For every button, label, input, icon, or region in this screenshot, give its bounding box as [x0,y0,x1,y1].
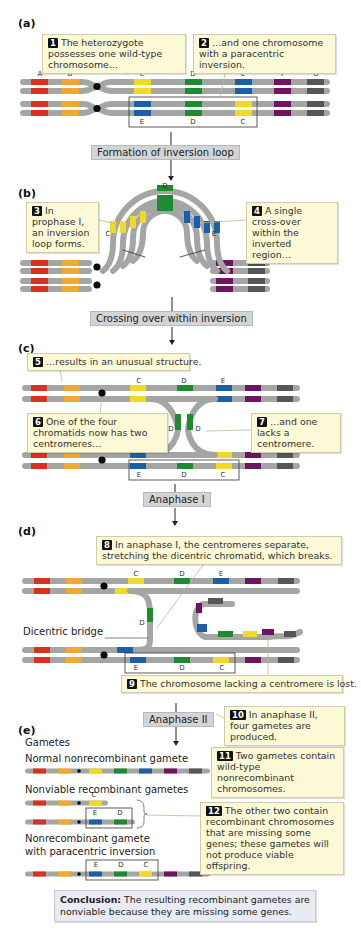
gene-F [164,769,177,774]
gene-B [62,260,79,266]
gene-E [134,110,151,116]
gene-E [89,820,102,825]
callout-number: 2 [199,38,209,48]
gene-label: C [221,471,226,479]
conclusion-label: Conclusion: [60,894,121,905]
gene-D [177,463,193,469]
gene-E [117,647,133,653]
gene-C [89,801,102,806]
gene-label: E [221,377,225,385]
centromere [100,582,107,589]
gene-F [262,629,274,635]
gene-label: C [137,377,142,385]
gene-label: E [219,570,223,578]
gene-E [134,101,151,107]
callout-number: 10 [230,710,246,720]
arrow-head [168,176,174,181]
gene-E [216,396,232,402]
gene-D [157,205,173,211]
gene-A [34,647,50,653]
gene-A [31,463,47,469]
gene-D [175,414,181,430]
callout-number: 12 [206,806,222,816]
callout-6: 6One of the four chromatids now has two … [27,413,168,453]
gene-label: E [140,118,144,126]
gene-C [213,657,229,663]
inversion-gamete-title-line1: Nonrecombinant gamete [25,833,150,844]
normal-gamete-title: Normal nonrecombinant gamete [25,753,188,764]
gene-C [130,385,146,391]
centromere [98,456,105,463]
conclusion-box: Conclusion: The resulting recombinant ga… [54,890,316,922]
gene-C [134,79,151,85]
step-crossing-over-within-inversion: Crossing over within inversion [90,311,253,326]
gene-B [62,110,79,116]
gene-D [177,385,193,391]
gene-E [197,624,207,632]
gene-G [307,79,324,85]
gene-G [277,463,293,469]
gene-B [58,801,71,806]
callout-number: 4 [252,206,262,216]
panel-d-anaphase-i: DEDCCDE [22,570,300,673]
gene-label: E [137,471,141,479]
gene-C [235,101,252,107]
callout-text: …and one chromosome with a paracentric i… [199,37,323,70]
gene-F [245,385,261,391]
gene-B [58,820,71,825]
gene-C [140,211,146,223]
gene-C [130,396,146,402]
gene-G [248,268,265,274]
gene-E [194,216,200,228]
panel-label-b: (b) [18,187,36,200]
gene-F [196,603,202,613]
gene-label: C [134,570,139,578]
gene-C [134,88,151,94]
gene-F [274,79,291,85]
gene-G [277,396,293,402]
gene-G [307,101,324,107]
gene-label: D [190,118,195,126]
step-formation-of-inversion-loop: Formation of inversion loop [91,145,240,160]
gene-B [64,385,80,391]
gene-G [278,578,294,584]
gene-G [189,769,202,774]
gene-E [235,79,252,85]
gene-label: D [162,182,167,190]
gene-C [128,578,144,584]
gene-A [31,88,48,94]
gene-D [185,79,202,85]
gene-C [130,216,136,228]
gene-label: C [106,230,111,238]
gene-label: D [168,425,173,433]
gene-G [208,598,223,604]
gene-F [245,578,261,584]
gene-G [307,110,324,116]
callout-text: The chromosome lacking a centromere is l… [140,678,357,689]
gene-A [31,110,48,116]
gene-label: E [94,861,98,869]
callout-text: …results in an unusual structure. [46,356,201,367]
gene-label: E [93,809,97,817]
callout-9: 9The chromosome lacking a centromere is … [121,675,343,693]
gene-B [62,101,79,107]
gene-F [216,278,233,284]
gene-E [139,769,152,774]
arrow-head [173,741,179,746]
callout-4: 4A single cross-over within the inverted… [246,202,338,264]
callout-text: Two gametes contain wild-type nonrecombi… [217,750,335,794]
gene-F [274,88,291,94]
gene-A [31,79,48,85]
gene-G [307,88,324,94]
gene-F [274,110,291,116]
chromatid [20,278,92,284]
gene-C [216,463,232,469]
gene-A [31,278,48,284]
centromere [98,389,105,396]
centromere [93,83,100,90]
gene-B [62,278,79,284]
step-anaphase-ii: Anaphase II [143,712,214,727]
gene-E [89,872,102,877]
callout-number: 3 [32,206,42,216]
gene-label: C [241,118,246,126]
